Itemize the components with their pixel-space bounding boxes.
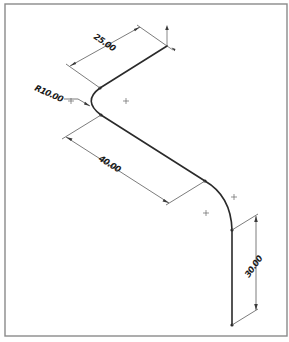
dimension-middle-length: 40.00 [62,115,205,205]
drawing-canvas: 25.00 R10.00 40.00 30.00 [0,0,289,342]
center-mark-small-bend-2 [123,98,129,104]
dimension-label-r10: R10.00 [33,83,65,105]
dimension-bend-radius: R10.00 [33,83,90,106]
center-mark-large-bend [231,194,237,200]
dimension-vertical-length: 30.00 [232,214,265,325]
center-mark-large-bend-2 [203,210,209,216]
origin-triad-icon [165,25,175,51]
dimension-label-30: 30.00 [242,253,264,279]
dimension-label-40: 40.00 [96,153,123,175]
dimension-label-25: 25.00 [92,31,118,53]
bend-profile [91,46,233,327]
sheet-frame [5,4,287,336]
